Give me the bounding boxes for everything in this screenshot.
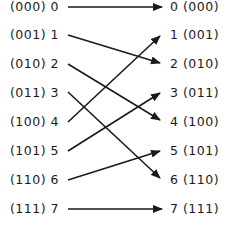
- edge-group: [68, 7, 162, 209]
- edge-2-4: [68, 64, 160, 120]
- shuffle-edges: [0, 0, 231, 229]
- edge-5-3: [68, 93, 160, 151]
